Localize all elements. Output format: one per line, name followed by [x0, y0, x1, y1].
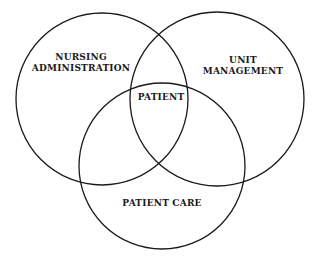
label-line: ADMINISTRATION — [26, 63, 136, 74]
label-line: NURSING — [26, 52, 136, 63]
label-unit-management: UNIT MANAGEMENT — [198, 55, 288, 77]
label-line: PATIENT CARE — [110, 198, 214, 209]
label-nursing-administration: NURSING ADMINISTRATION — [26, 52, 136, 74]
label-patient-care: PATIENT CARE — [110, 198, 214, 209]
label-line: UNIT — [198, 55, 288, 66]
label-line: MANAGEMENT — [198, 66, 288, 77]
venn-diagram — [0, 0, 316, 261]
label-patient: PATIENT — [131, 92, 191, 103]
